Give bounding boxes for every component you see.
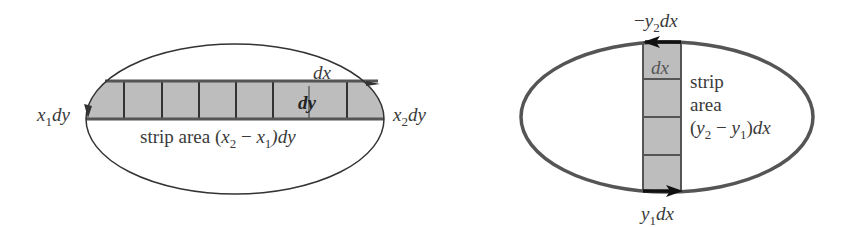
suffix: dy: [52, 104, 70, 125]
strip-area-label-vertical: (y2 − y1)dx: [690, 118, 771, 137]
subscript: 2: [401, 114, 408, 129]
strip-label-line2: area: [690, 95, 722, 114]
subscript: 1: [649, 213, 656, 227]
minus-sign: −: [634, 10, 645, 31]
label-dy: dy: [298, 93, 316, 112]
var2: x: [256, 126, 264, 147]
subscript: 2: [653, 20, 660, 35]
strip-area-label-horizontal: strip area (x2 − x1)dy: [140, 127, 296, 146]
sub1: 2: [705, 127, 712, 142]
minus: −: [711, 117, 731, 138]
suffix: dx: [656, 203, 674, 224]
label-x2-dy: x2dy: [393, 105, 426, 124]
var: y: [645, 10, 653, 31]
left-ellipse-figure: [80, 44, 390, 194]
subscript: 1: [45, 114, 52, 129]
label-dx: dx: [313, 63, 331, 82]
suffix: dy: [408, 104, 426, 125]
var1: x: [221, 126, 229, 147]
suffix: )dy: [271, 126, 295, 147]
strip-label-line1: strip: [690, 72, 724, 91]
label-y1-dx: y1dx: [641, 204, 674, 223]
var1: y: [696, 117, 704, 138]
sub2: 1: [740, 127, 747, 142]
minus: −: [236, 126, 256, 147]
diagram-canvas: [0, 0, 862, 227]
label-dx-cell: dx: [651, 58, 669, 77]
prefix: strip area (: [140, 126, 221, 147]
sub1: 2: [230, 136, 237, 151]
suffix: dx: [753, 117, 771, 138]
suffix: dx: [660, 10, 678, 31]
label-neg-y2-dx: −y2dx: [634, 11, 678, 30]
label-x1-dy: x1dy: [37, 105, 70, 124]
sub2: 1: [265, 136, 272, 151]
var2: y: [731, 117, 739, 138]
